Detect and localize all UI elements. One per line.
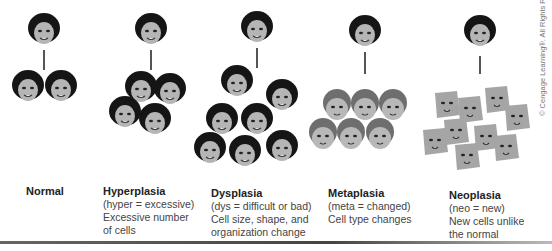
stage-metaplasia: Metaplasia (meta = changed) Cell type ch… [328, 187, 411, 226]
metaplasia-group [309, 15, 407, 149]
stage-description: organization change [211, 226, 311, 239]
stage-normal: Normal [26, 185, 64, 198]
bottom-rule [0, 241, 552, 244]
stage-dysplasia: Dysplasia (dys = difficult or bad) Cell … [211, 187, 311, 239]
stage-description: New cells unlike [449, 215, 524, 228]
stage-title: Dysplasia [211, 187, 311, 200]
stage-etymology: (neo = new) [449, 202, 524, 215]
stage-hyperplasia: Hyperplasia (hyper = excessive) Excessiv… [103, 185, 194, 237]
copyright-notice: © Cengage Learning®. All Rights Reserved… [538, 0, 547, 116]
stage-etymology: (hyper = excessive) [103, 198, 194, 211]
hyperplasia-group [109, 13, 186, 134]
stage-etymology: (meta = changed) [328, 200, 411, 213]
neoplasia-group [423, 15, 530, 170]
stage-title: Normal [26, 185, 64, 198]
stage-description: Excessive number [103, 211, 194, 224]
stage-description: Cell size, shape, and [211, 213, 311, 226]
dysplasia-group [194, 11, 298, 166]
stage-etymology: (dys = difficult or bad) [211, 200, 311, 213]
stage-title: Hyperplasia [103, 185, 194, 198]
stage-title: Metaplasia [328, 187, 411, 200]
stage-description: of cells [103, 224, 194, 237]
stage-description: the normal [449, 228, 524, 241]
normal-group [12, 13, 77, 101]
stage-title: Neoplasia [449, 189, 524, 202]
stage-description: Cell type changes [328, 213, 411, 226]
stage-neoplasia: Neoplasia (neo = new) New cells unlike t… [449, 189, 524, 241]
